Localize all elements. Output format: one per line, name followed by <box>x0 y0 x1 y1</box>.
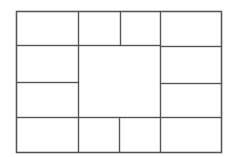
cell-bottom-left <box>17 118 79 153</box>
cell-top-mid-right <box>121 12 161 46</box>
cell-bottom-mid-right <box>120 118 161 153</box>
cell-top-left <box>17 12 79 46</box>
cell-left-lower <box>17 83 79 118</box>
cell-left-upper <box>17 46 79 83</box>
cell-top-mid-left <box>79 12 121 46</box>
cell-top-right <box>161 12 222 47</box>
cell-right-upper <box>161 47 222 84</box>
cell-bottom-mid-left <box>79 118 120 153</box>
partition-diagram <box>0 0 230 157</box>
cell-bottom-right <box>161 118 222 153</box>
cell-center <box>79 46 161 118</box>
cell-right-lower <box>161 84 222 118</box>
